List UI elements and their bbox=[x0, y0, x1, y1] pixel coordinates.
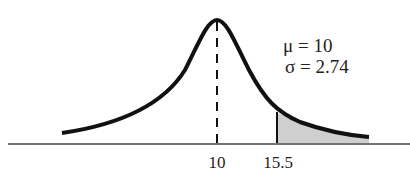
tick-label-mean: 10 bbox=[209, 153, 226, 172]
normal-curve-diagram: 10 15.5 μ = 10 σ = 2.74 bbox=[0, 0, 410, 183]
sigma-parameter-label: σ = 2.74 bbox=[285, 56, 349, 77]
tick-label-cutoff: 15.5 bbox=[263, 153, 293, 172]
mu-parameter-label: μ = 10 bbox=[283, 35, 332, 56]
